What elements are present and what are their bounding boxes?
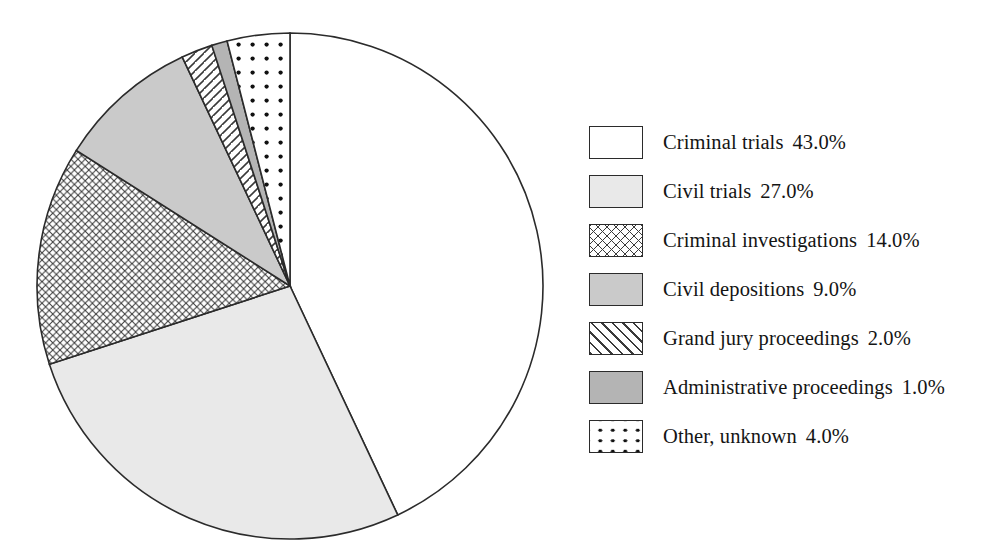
legend-item-other-unknown[interactable]: Other, unknown4.0% bbox=[589, 412, 989, 461]
legend-value-text: 1.0% bbox=[902, 376, 945, 398]
legend-label-text: Other, unknown bbox=[663, 425, 797, 447]
legend-label-text: Civil trials bbox=[663, 180, 751, 202]
legend-item-administrative-proceedings[interactable]: Administrative proceedings1.0% bbox=[589, 363, 989, 412]
pie-chart-svg bbox=[24, 26, 558, 540]
legend-item-criminal-investigations[interactable]: Criminal investigations14.0% bbox=[589, 216, 989, 265]
legend-value-text: 43.0% bbox=[793, 131, 846, 153]
legend-label-criminal-investigations: Criminal investigations14.0% bbox=[663, 229, 920, 252]
legend-label-civil-trials: Civil trials27.0% bbox=[663, 180, 814, 203]
pie-chart-area bbox=[24, 26, 558, 540]
legend-item-criminal-trials[interactable]: Criminal trials43.0% bbox=[589, 118, 989, 167]
legend-value-text: 9.0% bbox=[813, 278, 856, 300]
legend: Criminal trials43.0% Civil trials27.0% C… bbox=[589, 118, 989, 461]
legend-value-text: 4.0% bbox=[806, 425, 849, 447]
legend-label-text: Administrative proceedings bbox=[663, 376, 893, 398]
legend-label-administrative-proceedings: Administrative proceedings1.0% bbox=[663, 376, 945, 399]
legend-swatch-crosshatch bbox=[589, 224, 643, 257]
legend-label-civil-depositions: Civil depositions9.0% bbox=[663, 278, 856, 301]
legend-item-civil-depositions[interactable]: Civil depositions9.0% bbox=[589, 265, 989, 314]
legend-item-civil-trials[interactable]: Civil trials27.0% bbox=[589, 167, 989, 216]
legend-label-other-unknown: Other, unknown4.0% bbox=[663, 425, 849, 448]
legend-label-text: Grand jury proceedings bbox=[663, 327, 859, 349]
legend-swatch-dots bbox=[589, 420, 643, 453]
legend-value-text: 27.0% bbox=[760, 180, 813, 202]
legend-label-grand-jury-proceedings: Grand jury proceedings2.0% bbox=[663, 327, 911, 350]
legend-item-grand-jury-proceedings[interactable]: Grand jury proceedings2.0% bbox=[589, 314, 989, 363]
legend-label-text: Civil depositions bbox=[663, 278, 804, 300]
legend-swatch-dark-gray bbox=[589, 371, 643, 404]
legend-value-text: 2.0% bbox=[868, 327, 911, 349]
legend-swatch-white bbox=[589, 126, 643, 159]
legend-label-text: Criminal trials bbox=[663, 131, 784, 153]
legend-label-criminal-trials: Criminal trials43.0% bbox=[663, 131, 846, 154]
legend-swatch-light-gray bbox=[589, 175, 643, 208]
legend-value-text: 14.0% bbox=[866, 229, 919, 251]
legend-swatch-medium-gray bbox=[589, 273, 643, 306]
legend-label-text: Criminal investigations bbox=[663, 229, 857, 251]
legend-swatch-diagonal-hatch bbox=[589, 322, 643, 355]
pie-slices bbox=[37, 33, 543, 539]
